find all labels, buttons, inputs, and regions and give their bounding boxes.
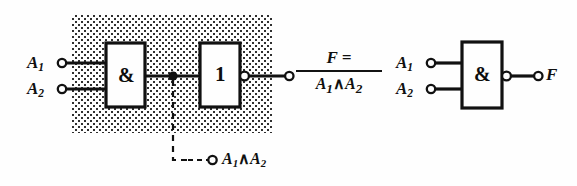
right-label-input-a1: A1 [396,54,413,74]
inverter-output-bubble [240,72,249,81]
output-denominator: A1∧A2 [296,74,382,97]
nand-gate-symbol-text: & [474,64,491,84]
and-gate-symbol: & [118,65,135,85]
input-terminal-a1 [58,59,66,67]
right-output-terminal [534,72,542,80]
output-terminal [285,72,293,80]
right-label-input-a2: A2 [396,80,413,100]
output-rule [296,70,382,72]
right-input-terminal-a1 [427,59,435,67]
logic-diagram [0,0,577,186]
input-terminal-a2 [58,85,66,93]
nand-output-bubble [502,72,511,81]
tap-label: A1∧A2 [222,151,266,169]
right-input-terminal-a2 [427,85,435,93]
output-expression: F = A1∧A2 [296,48,382,97]
junction-dot [168,71,177,80]
label-input-a1: A1 [27,54,44,74]
tap-terminal [208,156,216,164]
right-output-label: F [546,66,557,83]
label-input-a2: A2 [27,80,44,100]
output-numerator: F = [296,48,382,69]
inverter-gate-symbol: 1 [215,64,226,85]
